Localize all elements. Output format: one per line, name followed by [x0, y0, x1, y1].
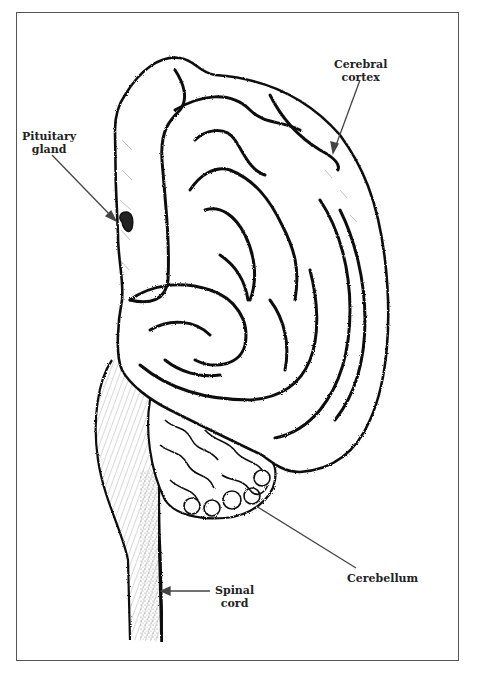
label-spinal-cord: Spinal cord: [215, 584, 254, 610]
label-line: Cerebral: [334, 58, 387, 71]
label-line: gland: [22, 143, 76, 156]
label-line: Spinal: [215, 584, 254, 597]
label-cerebral-cortex: Cerebral cortex: [334, 58, 387, 84]
label-line: cortex: [334, 71, 387, 84]
label-line: Pituitary: [22, 130, 76, 143]
label-cerebellum: Cerebellum: [347, 572, 418, 585]
label-line: Cerebellum: [347, 572, 418, 585]
label-line: cord: [215, 597, 254, 610]
label-pituitary-gland: Pituitary gland: [22, 130, 76, 156]
